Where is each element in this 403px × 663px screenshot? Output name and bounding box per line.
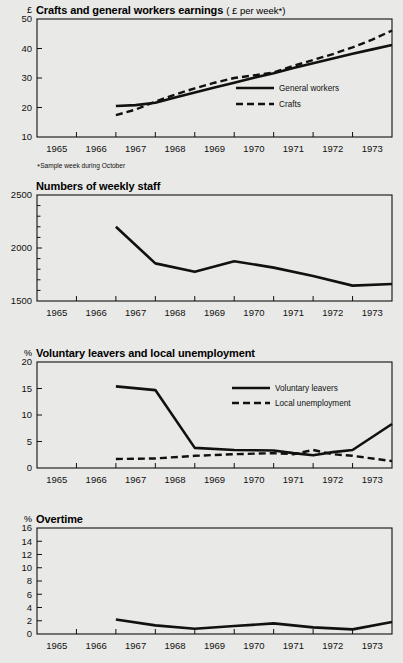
chart-leavers: 0510152019651966196719681969197019711972… (0, 358, 403, 490)
x-tick-label: 1966 (86, 474, 107, 485)
y-tick-label: 6 (27, 589, 32, 600)
y-tick-label: 4 (27, 602, 32, 613)
x-tick-label: 1968 (164, 474, 185, 485)
x-tick-label: 1966 (86, 143, 107, 154)
x-tick-label: 1969 (204, 143, 225, 154)
series-line (116, 619, 392, 629)
y-tick-label: 2500 (11, 189, 32, 200)
x-tick-label: 1967 (125, 474, 146, 485)
series-line (116, 386, 392, 455)
legend-label: General workers (279, 84, 339, 93)
x-tick-label: 1969 (204, 474, 225, 485)
y-tick-label: 10 (21, 131, 32, 142)
x-tick-label: 1973 (362, 640, 383, 651)
y-tick-label: 0 (27, 462, 32, 473)
x-tick-label: 1967 (125, 307, 146, 318)
y-tick-label: 1500 (11, 295, 32, 306)
y-tick-label: 2000 (11, 242, 32, 253)
panel-overtime-header: % Overtime (0, 511, 403, 525)
panel-earnings: £ Crafts and general workers earnings ( … (0, 2, 403, 174)
y-tick-label: 12 (21, 549, 32, 560)
legend-label: Local unemployment (275, 399, 351, 408)
chart-svg-weekly_staff: 1500200025001965196619671968196919701971… (0, 191, 403, 323)
footnote-text: Sample week during October (40, 162, 125, 169)
chart-overtime: 0246810121416196519661967196819691970197… (0, 524, 403, 656)
y-tick-label: 20 (21, 356, 32, 367)
panel-weekly-staff-header: Numbers of weekly staff (0, 178, 403, 192)
x-tick-label: 1965 (46, 640, 67, 651)
x-tick-label: 1970 (243, 640, 264, 651)
y-tick-label: 14 (21, 536, 32, 547)
chart-svg-leavers: 0510152019651966196719681969197019711972… (0, 358, 403, 490)
x-tick-label: 1969 (204, 640, 225, 651)
x-tick-label: 1972 (322, 307, 343, 318)
x-tick-label: 1970 (243, 474, 264, 485)
x-tick-label: 1972 (322, 474, 343, 485)
panel-leavers-header: % Voluntary leavers and local unemployme… (0, 345, 403, 359)
x-tick-label: 1973 (362, 143, 383, 154)
plot-frame (37, 195, 392, 301)
x-tick-label: 1972 (322, 143, 343, 154)
y-tick-label: 10 (21, 562, 32, 573)
x-tick-label: 1971 (283, 307, 304, 318)
x-tick-label: 1967 (125, 143, 146, 154)
series-line (116, 450, 392, 461)
chart-earnings: 1020304050196519661967196819691970197119… (0, 15, 403, 160)
x-tick-label: 1966 (86, 307, 107, 318)
footnote-marker: * (37, 162, 40, 171)
x-tick-label: 1970 (243, 307, 264, 318)
x-tick-label: 1971 (283, 640, 304, 651)
x-tick-label: 1968 (164, 307, 185, 318)
x-tick-label: 1965 (46, 307, 67, 318)
y-tick-label: 20 (21, 102, 32, 113)
x-tick-label: 1973 (362, 307, 383, 318)
x-tick-label: 1968 (164, 640, 185, 651)
y-tick-label: 16 (21, 522, 32, 533)
panel-weekly-staff: Numbers of weekly staff 1500200025001965… (0, 178, 403, 328)
x-tick-label: 1968 (164, 143, 185, 154)
y-tick-label: 40 (21, 43, 32, 54)
plot-frame (37, 528, 392, 634)
y-tick-label: 8 (27, 575, 32, 586)
x-tick-label: 1970 (243, 143, 264, 154)
x-tick-label: 1967 (125, 640, 146, 651)
y-tick-label: 15 (21, 383, 32, 394)
panel-earnings-header: £ Crafts and general workers earnings ( … (0, 2, 403, 16)
plot-frame (37, 19, 392, 137)
panel-overtime: % Overtime 02468101214161965196619671968… (0, 511, 403, 663)
y-tick-label: 10 (21, 409, 32, 420)
x-tick-label: 1971 (283, 143, 304, 154)
y-tick-label: 0 (27, 628, 32, 639)
y-tick-label: 5 (27, 436, 32, 447)
panel-leavers: % Voluntary leavers and local unemployme… (0, 345, 403, 500)
x-tick-label: 1966 (86, 640, 107, 651)
x-tick-label: 1971 (283, 474, 304, 485)
x-tick-label: 1969 (204, 307, 225, 318)
series-line (116, 227, 392, 286)
chart-svg-earnings: 1020304050196519661967196819691970197119… (0, 15, 403, 160)
y-tick-label: 50 (21, 13, 32, 24)
legend-label: Crafts (279, 100, 301, 109)
chart-svg-overtime: 0246810121416196519661967196819691970197… (0, 524, 403, 656)
x-tick-label: 1965 (46, 474, 67, 485)
legend-label: Voluntary leavers (275, 384, 338, 393)
y-tick-label: 2 (27, 615, 32, 626)
panel-earnings-footnote: *Sample week during October (37, 162, 125, 169)
y-tick-label: 30 (21, 72, 32, 83)
x-tick-label: 1972 (322, 640, 343, 651)
x-tick-label: 1973 (362, 474, 383, 485)
x-tick-label: 1965 (46, 143, 67, 154)
chart-weekly-staff: 1500200025001965196619671968196919701971… (0, 191, 403, 323)
